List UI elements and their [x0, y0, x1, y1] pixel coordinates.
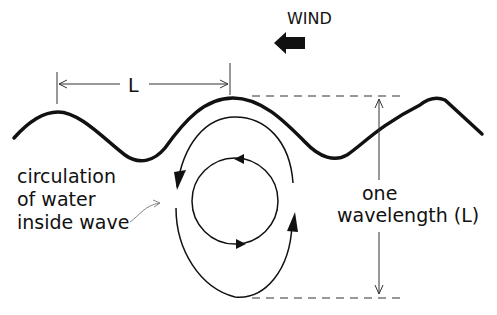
inner-orbit-arrow-bottom-icon — [236, 239, 246, 249]
outer-orbit-arrow-left-icon — [174, 170, 186, 190]
wavelength-label: L — [128, 74, 139, 96]
wind-indicator: WIND — [274, 9, 332, 54]
depth-label-line1: one — [362, 182, 397, 204]
wave-circulation-diagram: WIND L one wavelength (L) — [0, 0, 497, 315]
wavelength-dimension — [57, 63, 230, 104]
outer-circulation-orbit — [176, 117, 293, 297]
circulation-label-line2: of water — [17, 188, 96, 210]
circulation-label-line1: circulation — [17, 165, 116, 187]
inner-circulation-orbit — [192, 158, 278, 244]
circulation-pointer — [130, 200, 160, 222]
circulation-label-line3: inside wave — [17, 211, 129, 233]
wind-arrow-icon — [274, 32, 305, 54]
outer-orbit-arrow-right-icon — [287, 212, 298, 232]
inner-orbit-arrow-top-icon — [234, 154, 244, 164]
depth-label-line2: wavelength (L) — [337, 204, 479, 226]
wind-label: WIND — [287, 9, 332, 28]
wave-surface — [14, 98, 482, 161]
